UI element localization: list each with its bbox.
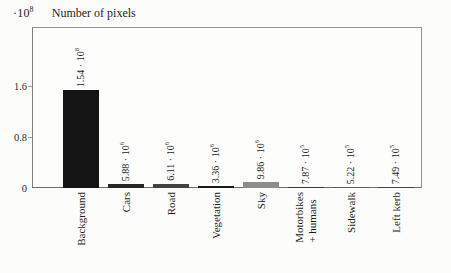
x-axis-label-left-kerb: Left kerb: [390, 192, 403, 233]
bar-value-label-cars: 5.88 · 106: [120, 142, 132, 181]
bar-value-label-motorbikes-humans: 7.87 · 105: [300, 145, 312, 184]
x-axis-label-line: Sky: [255, 192, 268, 209]
bar-sky: [243, 182, 279, 188]
bar-sidewalk: [333, 187, 369, 188]
bar-value-exponent: 5: [298, 145, 305, 148]
x-axis-label-line: Left kerb: [390, 192, 403, 233]
bar-value-exponent: 8: [73, 48, 80, 51]
bar-value-exponent: 6: [253, 140, 260, 143]
y-axis-title: Number of pixels: [52, 6, 136, 20]
bar-value-exponent: 6: [208, 144, 215, 147]
bar-value-label-left-kerb: 7.49 · 105: [390, 145, 402, 184]
bars-layer: 1.54 · 1085.88 · 1066.11 · 1063.36 · 106…: [32, 27, 422, 188]
y-tick-label-1-6: 1.6: [0, 80, 27, 94]
bar-vegetation: [198, 186, 234, 188]
bar-value-mantissa: 6.11 · 10: [165, 146, 176, 181]
x-axis-label-cars: Cars: [120, 192, 133, 212]
bar-value-exponent: 6: [163, 142, 170, 145]
x-axis-label-background: Background: [75, 192, 88, 246]
bar-value-mantissa: 5.88 · 10: [120, 145, 131, 181]
bar-value-exponent: 5: [343, 145, 350, 148]
x-axis-label-motorbikes-humans: Motorbikes+ humans: [293, 192, 319, 243]
bar-value-mantissa: 7.49 · 10: [390, 148, 401, 184]
y-axis-multiplier-exponent: 8: [30, 5, 34, 14]
bar-chart: ·108 Number of pixels 1.54 · 1085.88 · 1…: [0, 0, 451, 273]
y-axis-multiplier-base: ·10: [13, 6, 30, 20]
bar-motorbikes-humans: [288, 187, 324, 188]
x-axis-label-line: Vegetation: [210, 192, 223, 239]
bar-cars: [108, 184, 144, 188]
y-tick-mark: [28, 86, 32, 87]
chart-header: ·108 Number of pixels: [13, 6, 136, 21]
bar-value-label-sidewalk: 5.22 · 105: [345, 145, 357, 184]
x-axis-label-line: + humans: [306, 192, 319, 243]
x-axis-label-sky: Sky: [255, 192, 268, 209]
y-axis-multiplier: ·108: [13, 6, 34, 20]
bar-value-label-road: 6.11 · 106: [165, 142, 177, 181]
bar-value-label-sky: 9.86 · 106: [255, 140, 267, 179]
x-axis-label-road: Road: [165, 192, 178, 215]
y-tick-label-0: 0: [0, 182, 27, 196]
x-axis-label-line: Background: [75, 192, 88, 246]
x-axis-label-sidewalk: Sidewalk: [345, 192, 358, 233]
bar-left-kerb: [378, 187, 414, 188]
bar-value-mantissa: 9.86 · 10: [255, 143, 266, 179]
bar-value-mantissa: 1.54 · 10: [75, 51, 86, 87]
x-axis-label-line: Motorbikes: [293, 192, 306, 243]
x-axis-label-line: Cars: [120, 192, 133, 212]
y-tick-label-0-8: 0.8: [0, 131, 27, 145]
bar-value-exponent: 5: [388, 145, 395, 148]
x-axis-label-line: Road: [165, 192, 178, 215]
bar-value-label-vegetation: 3.36 · 106: [210, 144, 222, 183]
y-tick-mark: [28, 137, 32, 138]
bar-background: [63, 90, 99, 188]
bar-value-mantissa: 7.87 · 10: [300, 148, 311, 184]
bar-value-mantissa: 3.36 · 10: [210, 147, 221, 183]
bar-value-mantissa: 5.22 · 10: [345, 148, 356, 184]
bar-value-label-background: 1.54 · 108: [75, 48, 87, 87]
bar-road: [153, 184, 189, 188]
x-axis-label-vegetation: Vegetation: [210, 192, 223, 239]
bar-value-exponent: 6: [118, 142, 125, 145]
x-axis-label-line: Sidewalk: [345, 192, 358, 233]
